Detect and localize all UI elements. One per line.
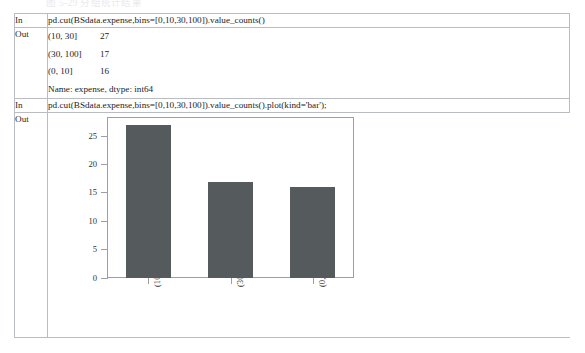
x-axis-tick-label: (30, 100]	[235, 255, 245, 287]
output-line-index: (10, 30]	[48, 28, 100, 46]
x-axis-tick	[148, 278, 149, 284]
text-output-cell: (10, 30]27(30, 100]17(0, 10]16Name: expe…	[48, 28, 570, 99]
plot-frame	[107, 117, 354, 278]
output-line: (30, 100]17	[48, 46, 569, 64]
code-input-cell[interactable]: pd.cut(BSdata.expense,bins=[0,10,30,100]…	[48, 99, 570, 113]
notebook-row: Inpd.cut(BSdata.expense,bins=[0,10,30,10…	[15, 14, 570, 28]
y-axis-tick-label: 15	[48, 188, 97, 196]
notebook-row: Inpd.cut(BSdata.expense,bins=[0,10,30,10…	[15, 99, 570, 113]
output-line-value: 27	[100, 28, 109, 46]
output-line-value: 16	[100, 63, 109, 81]
y-axis-tick-label: 25	[48, 132, 97, 140]
cell-prompt-label: Out	[15, 28, 48, 99]
x-axis-tick	[313, 278, 314, 284]
y-axis-tick	[101, 278, 108, 279]
output-line: Name: expense, dtype: int64	[48, 81, 569, 99]
y-axis-tick	[101, 164, 108, 165]
y-axis-tick-label: 0	[48, 274, 97, 282]
chart-output-cell: 0510152025(10, 30](30, 100](0, 10]	[48, 113, 570, 338]
notebook-row: Out(10, 30]27(30, 100]17(0, 10]16Name: e…	[15, 28, 570, 99]
output-line-value: 17	[100, 46, 109, 64]
notebook-row: Out0510152025(10, 30](30, 100](0, 10]	[15, 113, 570, 338]
y-axis-tick	[101, 192, 108, 193]
y-axis-tick	[101, 249, 108, 250]
x-axis-tick	[231, 278, 232, 284]
code-input-cell[interactable]: pd.cut(BSdata.expense,bins=[0,10,30,100]…	[48, 14, 570, 28]
output-line-index: (0, 10]	[48, 63, 100, 81]
cell-prompt-label: In	[15, 99, 48, 113]
y-axis-tick-label: 10	[48, 217, 97, 225]
y-axis-tick-label: 5	[48, 245, 97, 253]
output-line: (0, 10]16	[48, 63, 569, 81]
x-axis-tick-label: (0, 10]	[317, 264, 327, 287]
y-axis-tick	[101, 136, 108, 137]
output-line: (10, 30]27	[48, 28, 569, 46]
notebook-table-body: Inpd.cut(BSdata.expense,bins=[0,10,30,10…	[15, 14, 570, 338]
output-line-index: (30, 100]	[48, 46, 100, 64]
cell-prompt-label: Out	[15, 113, 48, 338]
x-axis-tick-label: (10, 30]	[152, 260, 162, 287]
bar-chart: 0510152025(10, 30](30, 100](0, 10]	[48, 113, 570, 337]
cell-prompt-label: In	[15, 14, 48, 28]
y-axis-tick-label: 20	[48, 160, 97, 168]
output-line-index: Name: expense, dtype: int64	[48, 81, 153, 99]
notebook-cell-table: Inpd.cut(BSdata.expense,bins=[0,10,30,10…	[14, 13, 570, 338]
y-axis-tick	[101, 221, 108, 222]
page-caption-sliver: 图 5-29 分组统计结果	[46, 0, 142, 9]
screenshot-root: 图 5-29 分组统计结果 Inpd.cut(BSdata.expense,bi…	[0, 0, 585, 353]
